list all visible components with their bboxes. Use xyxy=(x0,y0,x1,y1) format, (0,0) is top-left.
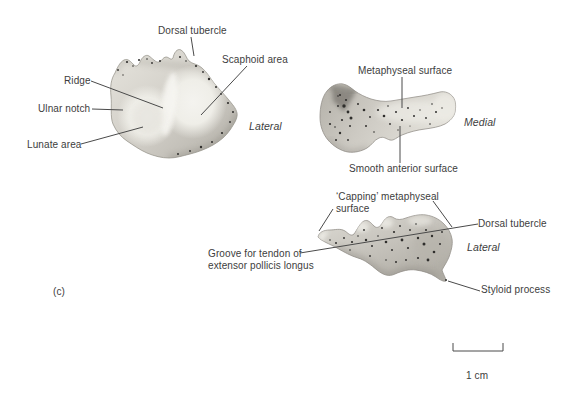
label-dorsal-tubercle-lateral: Dorsal tubercle xyxy=(478,218,547,230)
scale-bar-label: 1 cm xyxy=(466,370,488,382)
label-ridge: Ridge xyxy=(64,75,91,87)
anatomy-figure: Dorsal tubercle Scaphoid area Ridge Ulna… xyxy=(0,0,571,393)
orientation-label-lateral-side: Lateral xyxy=(467,241,500,253)
label-lunate-area: Lunate area xyxy=(27,139,81,151)
orientation-label-medial: Medial xyxy=(464,116,496,128)
label-capping-metaphyseal-surface: ‘Capping’ metaphyseal surface xyxy=(336,191,439,215)
scale-bar xyxy=(453,343,503,351)
label-ulnar-notch: Ulnar notch xyxy=(38,103,90,115)
label-capping-line1: ‘Capping’ metaphyseal xyxy=(336,191,439,203)
panel-letter: (c) xyxy=(53,286,65,298)
label-metaphyseal-surface: Metaphyseal surface xyxy=(358,65,452,77)
label-scaphoid-area: Scaphoid area xyxy=(222,54,288,66)
medial-view-bone-illustration xyxy=(314,76,460,158)
label-dorsal-tubercle-distal: Dorsal tubercle xyxy=(158,25,227,37)
orientation-label-lateral-distal: Lateral xyxy=(249,120,282,132)
label-groove-line2: extensor pollicis longus xyxy=(208,260,314,272)
label-groove-extensor-pollicis-longus: Groove for tendon of extensor pollicis l… xyxy=(208,248,314,272)
lateral-view-bone-illustration xyxy=(312,210,462,288)
label-styloid-process: Styloid process xyxy=(481,284,550,296)
label-groove-line1: Groove for tendon of xyxy=(208,248,314,260)
label-capping-line2: surface xyxy=(336,203,439,215)
label-smooth-anterior-surface: Smooth anterior surface xyxy=(349,163,458,175)
